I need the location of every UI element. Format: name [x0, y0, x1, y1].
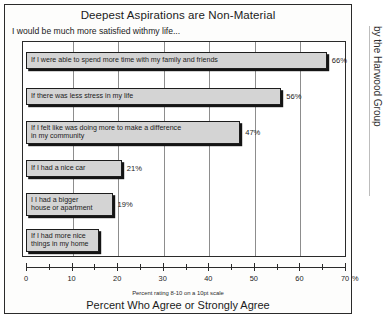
- x-axis: % 010203040506070: [22, 267, 346, 291]
- x-axis-unit-label: %: [352, 274, 359, 283]
- x-axis-tick: [208, 263, 209, 271]
- x-axis-tick: [322, 264, 323, 270]
- bar-value-label: 66%: [332, 56, 347, 65]
- bar-row: If I had a nice car21%: [22, 160, 346, 177]
- source-credit-rule: [369, 26, 370, 196]
- bar-row: If I had more nice things in my home: [22, 229, 346, 252]
- x-axis-title: Percent Who Agree or Strongly Agree: [5, 299, 351, 311]
- chart-title: Deepest Aspirations are Non-Material: [5, 9, 351, 21]
- x-axis-tick: [117, 263, 118, 271]
- x-axis-tick: [186, 264, 187, 270]
- bars-layer: If I were able to spend more time with m…: [22, 41, 346, 257]
- chart-subtitle: I would be much more satisfied withmy li…: [12, 26, 180, 36]
- source-credit: by the Harwood Group: [369, 26, 385, 196]
- chart-card: Deepest Aspirations are Non-Material I w…: [4, 4, 352, 314]
- x-axis-tick-label: 20: [113, 274, 121, 283]
- source-credit-text: by the Harwood Group: [372, 26, 383, 127]
- bar[interactable]: If I were able to spend more time with m…: [26, 52, 327, 69]
- x-axis-tick: [26, 263, 27, 271]
- bar[interactable]: If I had more nice things in my home: [26, 229, 99, 252]
- x-axis-tick: [345, 263, 346, 271]
- x-axis-tick: [49, 264, 50, 270]
- x-axis-tick: [72, 263, 73, 271]
- bar-value-label: 21%: [127, 164, 142, 173]
- bar-value-label: 19%: [118, 200, 133, 209]
- x-axis-tick-label: 70: [341, 274, 349, 283]
- bar-category-label: If I had a nice car: [31, 164, 85, 172]
- x-axis-tick: [163, 263, 164, 271]
- bar-value-label: 56%: [286, 92, 301, 101]
- x-axis-tick-label: 30: [159, 274, 167, 283]
- bar-value-label: 47%: [245, 128, 260, 137]
- bar-row: If I felt like was doing more to make a …: [22, 121, 346, 144]
- x-axis-tick: [140, 264, 141, 270]
- x-axis-tick-label: 50: [250, 274, 258, 283]
- x-axis-tick-label: 40: [204, 274, 212, 283]
- bar-category-label: If I were able to spend more time with m…: [31, 56, 218, 64]
- bar-category-label: If I felt like was doing more to make a …: [31, 124, 181, 141]
- bar-category-label: If I had more nice things in my home: [31, 232, 89, 249]
- bar-category-label: I I had a bigger house or apartment: [31, 196, 93, 213]
- x-axis-tick-label: 60: [295, 274, 303, 283]
- x-axis-tick-label: 10: [67, 274, 75, 283]
- bar[interactable]: I I had a bigger house or apartment: [26, 193, 113, 216]
- x-axis-tick: [254, 263, 255, 271]
- bar-row: I I had a bigger house or apartment19%: [22, 193, 346, 216]
- bar-row: If there was less stress in my life56%: [22, 88, 346, 105]
- axis-footnote: Percent rating 8-10 on a 10pt scale: [5, 290, 351, 296]
- bar[interactable]: If I had a nice car: [26, 160, 122, 177]
- x-axis-tick: [277, 264, 278, 270]
- bar-category-label: If there was less stress in my life: [31, 92, 133, 100]
- x-axis-tick-label: 0: [24, 274, 28, 283]
- x-axis-tick: [94, 264, 95, 270]
- bar[interactable]: If I felt like was doing more to make a …: [26, 121, 240, 144]
- bar[interactable]: If there was less stress in my life: [26, 88, 281, 105]
- x-axis-tick: [231, 264, 232, 270]
- bar-row: If I were able to spend more time with m…: [22, 52, 346, 69]
- x-axis-tick: [299, 263, 300, 271]
